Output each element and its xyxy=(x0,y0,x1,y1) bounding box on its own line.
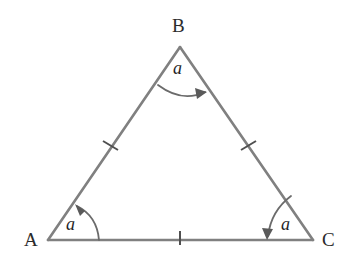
angle-label-C: a xyxy=(281,215,290,233)
angle-label-A: a xyxy=(66,215,75,233)
side-AB xyxy=(48,47,180,240)
diagram-canvas: B A C a a a xyxy=(0,0,351,261)
vertex-label-C: C xyxy=(322,230,335,249)
side-BC xyxy=(180,47,313,240)
side-tick-marks xyxy=(103,141,256,245)
arrowhead-angle-B xyxy=(195,88,207,99)
arrowhead-angle-A xyxy=(75,204,85,216)
vertex-label-A: A xyxy=(24,230,38,249)
angle-arc-arrowheads xyxy=(75,88,273,240)
arrowhead-angle-C xyxy=(262,228,273,240)
triangle-figure xyxy=(0,0,351,261)
vertex-label-B: B xyxy=(172,16,185,35)
angle-label-B: a xyxy=(173,59,182,77)
